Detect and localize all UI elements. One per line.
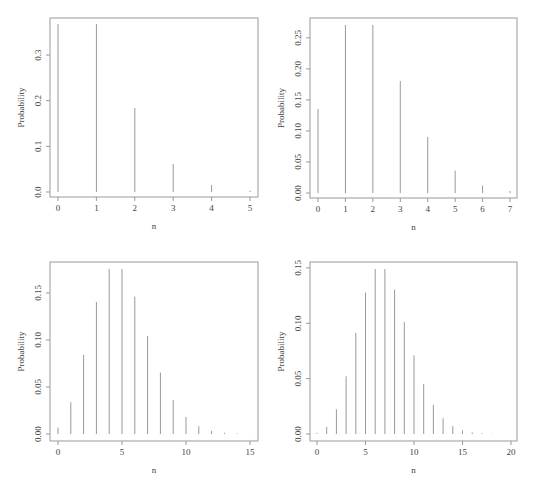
x-axis-title: n	[411, 465, 416, 475]
y-axis-title: Probability	[276, 331, 286, 371]
x-tick-label: 5	[363, 447, 368, 457]
y-tick-label: 0.05	[33, 379, 43, 395]
x-tick-label: 20	[507, 447, 517, 457]
x-tick-label: 1	[343, 204, 348, 214]
y-tick-label: 0.05	[293, 370, 303, 386]
y-tick-label: 0.15	[293, 92, 303, 108]
x-tick-label: 0	[315, 447, 320, 457]
x-axis-title: n	[152, 221, 157, 231]
x-tick-label: 10	[410, 447, 420, 457]
y-tick-label: 0.10	[293, 123, 303, 139]
plot-frame	[50, 262, 258, 441]
y-tick-label: 0.10	[33, 332, 43, 348]
x-tick-label: 1	[94, 203, 99, 213]
y-tick-label: 0.3	[33, 49, 43, 61]
x-axis-title: n	[152, 465, 157, 475]
y-axis-title: Probability	[276, 88, 286, 128]
x-tick-label: 5	[248, 203, 253, 213]
x-tick-label: 2	[371, 204, 376, 214]
y-axis-title: Probability	[16, 87, 26, 127]
x-tick-label: 5	[120, 447, 125, 457]
x-tick-label: 2	[133, 203, 138, 213]
x-tick-label: 7	[508, 204, 513, 214]
y-tick-label: 0.10	[293, 315, 303, 331]
stem-series	[318, 25, 510, 193]
y-tick-label: 0.20	[293, 61, 303, 77]
stem-series	[317, 269, 511, 434]
chart-2: 012345670.000.050.100.150.200.25nProbabi…	[276, 18, 517, 232]
x-tick-label: 6	[480, 204, 485, 214]
x-axis: 01234567	[316, 198, 513, 214]
y-axis: 0.00.10.20.3	[33, 49, 50, 198]
x-tick-label: 4	[425, 204, 430, 214]
x-tick-label: 15	[246, 447, 256, 457]
y-tick-label: 0.00	[293, 426, 303, 442]
y-tick-label: 0.15	[33, 285, 43, 301]
x-tick-label: 10	[182, 447, 192, 457]
x-tick-label: 0	[316, 204, 321, 214]
y-axis: 0.000.050.100.15	[33, 285, 50, 442]
x-tick-label: 3	[171, 203, 176, 213]
x-tick-label: 5	[453, 204, 458, 214]
x-tick-label: 0	[56, 447, 61, 457]
y-tick-label: 0.00	[33, 426, 43, 442]
x-axis-title: n	[411, 222, 416, 232]
stem-series	[58, 269, 250, 434]
y-axis-title: Probability	[16, 331, 26, 371]
y-tick-label: 0.25	[293, 29, 303, 45]
y-tick-label: 0.05	[293, 154, 303, 170]
stem-series	[58, 24, 250, 192]
y-tick-label: 0.15	[293, 260, 303, 276]
x-axis: 051015	[56, 441, 255, 457]
y-axis: 0.000.050.100.150.200.25	[293, 29, 310, 200]
chart-4: 051015200.000.050.100.15nProbability	[276, 260, 517, 475]
chart-3: 0510150.000.050.100.15nProbability	[16, 262, 258, 475]
y-tick-label: 0.2	[33, 95, 43, 106]
y-tick-label: 0.00	[293, 185, 303, 201]
y-tick-label: 0.0	[33, 186, 43, 198]
x-tick-label: 0	[56, 203, 61, 213]
plot-frame	[50, 18, 258, 197]
chart-grid: 0123450.00.10.20.3nProbability012345670.…	[0, 0, 537, 483]
x-tick-label: 4	[209, 203, 214, 213]
y-axis: 0.000.050.100.15	[293, 260, 310, 442]
chart-1: 0123450.00.10.20.3nProbability	[16, 18, 258, 231]
x-axis: 012345	[56, 197, 253, 213]
x-tick-label: 15	[458, 447, 468, 457]
x-axis: 05101520	[315, 441, 516, 457]
plot-frame	[310, 18, 517, 198]
y-tick-label: 0.1	[33, 141, 43, 152]
x-tick-label: 3	[398, 204, 403, 214]
